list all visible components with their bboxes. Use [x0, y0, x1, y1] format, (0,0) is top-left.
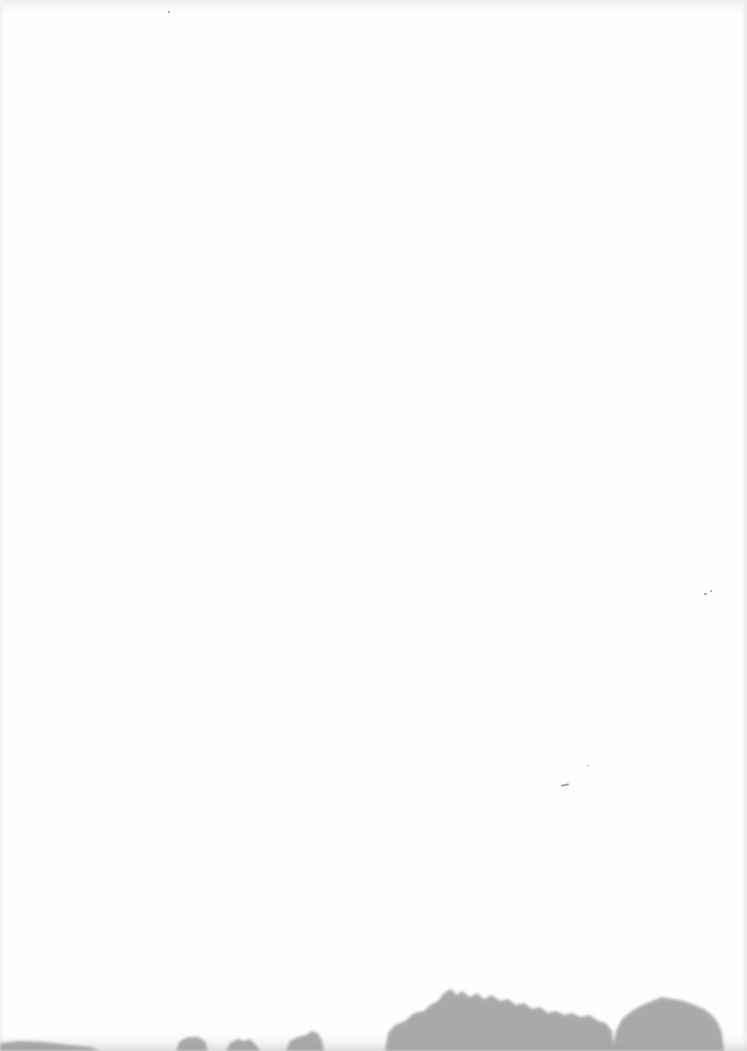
dust-speck	[710, 590, 712, 592]
dust-speck	[587, 765, 589, 766]
dust-speck	[168, 11, 170, 13]
misty-treeline	[0, 981, 747, 1051]
scan-right-shadow	[742, 0, 747, 1051]
scan-left-shadow	[0, 0, 4, 1051]
dust-speck	[561, 783, 569, 787]
blank-page	[0, 0, 747, 1051]
dust-speck	[704, 593, 707, 595]
scan-top-shadow	[0, 0, 747, 14]
